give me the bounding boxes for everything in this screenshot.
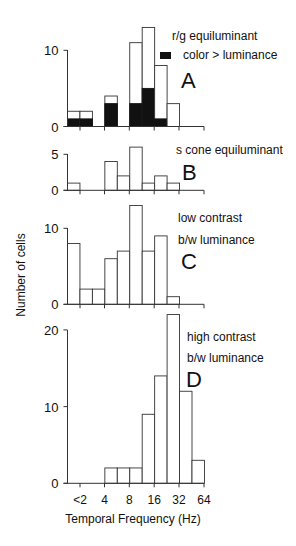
y-tick-label: 0 <box>51 476 58 491</box>
histogram-bar <box>167 183 179 190</box>
histogram-bar <box>130 147 142 190</box>
histogram-bar <box>105 259 117 305</box>
histogram-bar <box>180 391 192 483</box>
histogram-bar <box>155 66 167 127</box>
x-tick-label: <2 <box>73 493 87 507</box>
histogram-bar <box>117 176 129 190</box>
histogram-bar <box>167 297 179 305</box>
histogram-bar <box>105 468 117 483</box>
legend-swatch-icon <box>160 52 171 59</box>
histogram-bar <box>68 244 80 305</box>
panel-letter-d: D <box>186 367 202 392</box>
highlight-bar <box>68 119 80 127</box>
panel-b-title: s cone equiluminant <box>176 143 283 157</box>
x-tick-label: 8 <box>126 493 133 507</box>
y-tick-label: 5 <box>51 147 58 162</box>
y-tick-label: 20 <box>44 323 58 338</box>
x-axis-title: Temporal Frequency (Hz) <box>65 512 200 526</box>
highlight-bar <box>130 104 142 127</box>
x-tick-label: 64 <box>197 493 211 507</box>
histogram-bar <box>192 460 204 483</box>
y-tick-label: 10 <box>44 400 58 415</box>
y-tick-label: 0 <box>51 183 58 198</box>
histogram-bar <box>167 315 179 484</box>
panel-c-title-line2: b/w luminance <box>178 233 255 247</box>
histogram-figure: 0100501001020r/g equiluminantcolor > lum… <box>0 0 296 546</box>
legend-label: color > luminance <box>183 48 278 62</box>
histogram-bar <box>142 414 154 483</box>
highlight-bar <box>155 119 167 127</box>
panel-d-title-line2: b/w luminance <box>187 351 264 365</box>
panel-d-title-line1: high contrast <box>187 330 256 344</box>
chart-svg: 0100501001020r/g equiluminantcolor > lum… <box>0 0 296 546</box>
histogram-bar <box>117 251 129 304</box>
panel-letter-c: C <box>181 249 197 274</box>
y-tick-label: 0 <box>51 297 58 312</box>
histogram-bar <box>142 251 154 304</box>
panel-letter-a: A <box>181 68 196 93</box>
histogram-bar <box>80 289 92 304</box>
histogram-bar <box>155 376 167 483</box>
highlight-bar <box>105 104 117 127</box>
x-tick-label: 4 <box>101 493 108 507</box>
histogram-bar <box>142 183 154 190</box>
y-tick-label: 0 <box>51 120 58 135</box>
panel-letter-b: B <box>182 160 197 185</box>
panel-c-title-line1: low contrast <box>178 211 243 225</box>
histogram-bar <box>130 468 142 483</box>
y-axis-title: Number of cells <box>14 233 28 316</box>
highlight-bar <box>80 119 92 127</box>
x-tick-label: 32 <box>172 493 186 507</box>
histogram-bar <box>155 236 167 304</box>
histogram-bar <box>167 104 179 127</box>
histogram-bar <box>155 176 167 190</box>
histogram-bar <box>68 183 80 190</box>
highlight-bar <box>142 88 154 126</box>
x-tick-label: 16 <box>148 493 162 507</box>
histogram-bar <box>105 162 117 191</box>
y-tick-label: 10 <box>44 221 58 236</box>
panel-a-title: r/g equiluminant <box>172 29 258 43</box>
histogram-bar <box>92 289 104 304</box>
histogram-bar <box>130 206 142 305</box>
y-tick-label: 10 <box>44 43 58 58</box>
histogram-bar <box>117 468 129 483</box>
